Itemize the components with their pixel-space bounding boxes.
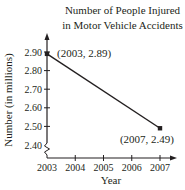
y-axis-arrow-icon [45,33,50,40]
y-axis-label: Number (in millions) [2,53,15,147]
y-tick-label: 2.70 [25,84,43,95]
y-tick-label: 2.60 [25,102,43,113]
annotation-label: (2003, 2.89) [57,47,111,60]
data-point [45,52,49,56]
x-tick-label: 2003 [37,162,57,173]
x-tick-label: 2005 [94,162,114,173]
y-tick-label: 2.90 [25,47,43,58]
y-tick-label: 2.50 [25,121,43,132]
data-point [158,126,162,130]
x-tick-label: 2007 [150,162,170,173]
x-axis: 20032004200520062007 [37,155,177,173]
x-tick-label: 2006 [122,162,142,173]
x-axis-label: Year [101,174,122,186]
axis-break-icon [45,143,50,158]
y-tick-label: 2.40 [25,140,43,151]
x-axis-arrow-icon [170,156,177,161]
data-line [47,54,160,128]
data-series: (2003, 2.89)(2007, 2.49) [45,47,175,146]
line-chart: 2.402.502.602.702.802.90 200320042005200… [0,0,185,190]
x-tick-label: 2004 [65,162,85,173]
annotation-label: (2007, 2.49) [120,133,174,146]
y-tick-label: 2.80 [25,65,43,76]
